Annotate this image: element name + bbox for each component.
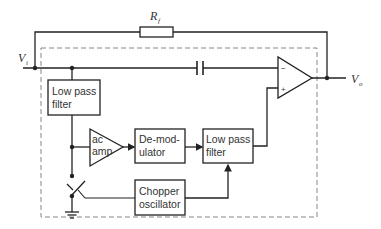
input-lpf-label-2: filter [52,98,72,110]
output-lpf-label-1: Low pass [206,133,250,145]
demodulator-label-2: ulator [139,146,166,158]
switch-drive-line [78,190,135,198]
chopper-label-2: oscillator [139,198,181,210]
input-subscript: i [26,59,28,67]
switch-contact-top [70,174,74,178]
output-node [325,76,329,80]
coupling-capacitor [197,61,203,75]
chopper-label-1: Chopper [139,185,180,197]
opamp-noninverting-input: + [281,85,286,94]
chopper-amplifier-diagram: R f V i − + V o Low pass filter ac amp D… [0,0,381,229]
ac-amp-label-2: amp [92,145,113,157]
feedback-resistor-subscript: f [158,17,161,25]
ground-icon [65,196,79,218]
input-lpf-label-1: Low pass [52,85,96,97]
opamp-inverting-input: − [281,64,286,73]
output-subscript: o [359,80,363,88]
input-node [33,66,37,70]
ac-amp-label-1: ac [92,133,103,145]
feedback-resistor-label: R [149,9,158,23]
output-lpf-label-2: filter [206,146,226,158]
feedback-resistor [140,27,173,37]
demodulator-label-1: De-mod- [139,133,180,145]
